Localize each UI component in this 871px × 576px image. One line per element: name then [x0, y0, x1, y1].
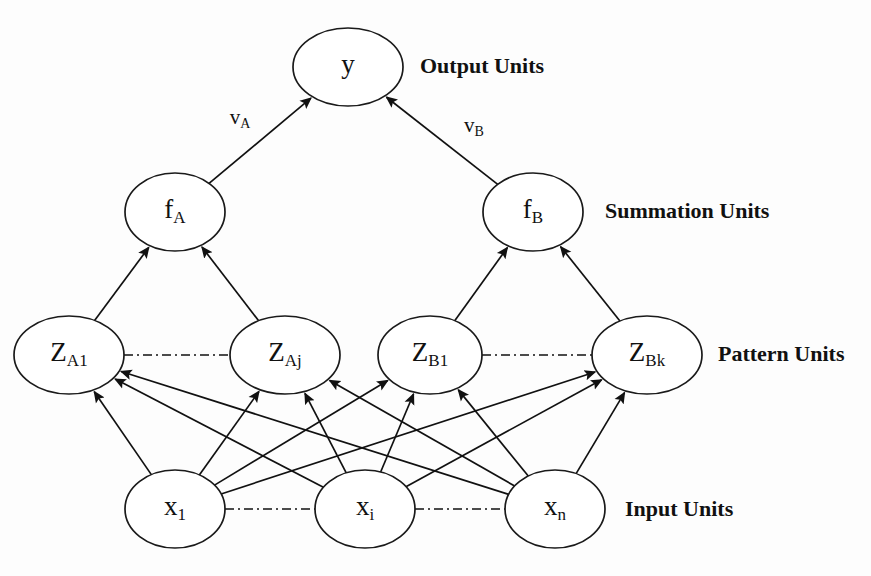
- node-y[interactable]: y: [293, 28, 403, 106]
- node-xi[interactable]: xi: [315, 470, 415, 548]
- node-ZAj[interactable]: ZAj: [230, 316, 340, 394]
- edge-arrow-fA-to-y: [209, 98, 311, 183]
- layer-label-output: Output Units: [420, 53, 545, 78]
- node-ZB1[interactable]: ZB1: [378, 316, 482, 394]
- edge-arrow-xn-to-ZBk: [576, 393, 624, 474]
- edge-arrow-x1-to-ZA1: [94, 392, 151, 475]
- node-fB[interactable]: fB: [483, 173, 583, 251]
- node-x1[interactable]: x1: [125, 470, 225, 548]
- node-label-y: y: [341, 49, 355, 79]
- layer-label-pattern: Pattern Units: [718, 341, 845, 366]
- edge-arrow-xi-to-ZAj: [305, 393, 346, 472]
- edge-arrow-xn-to-ZB1: [458, 390, 528, 476]
- edge-arrow-fB-to-y: [387, 97, 498, 184]
- network-diagram: yfAfBZA1ZAjZB1ZBkx1xixn Output UnitsSumm…: [0, 0, 871, 576]
- edge-arrow-ZBk-to-fB: [561, 247, 620, 321]
- node-fA[interactable]: fA: [125, 173, 225, 251]
- node-xn[interactable]: xn: [505, 470, 605, 548]
- edge-arrow-x1-to-ZAj: [199, 391, 259, 474]
- node-layer: yfAfBZA1ZAjZB1ZBkx1xixn: [14, 28, 702, 548]
- edge-arrow-ZA1-to-fA: [95, 247, 149, 320]
- edge-arrow-ZB1-to-fB: [455, 248, 508, 321]
- layer-label-input: Input Units: [625, 496, 734, 521]
- layer-label-summation: Summation Units: [605, 198, 770, 223]
- edge-weight-label-fA-y: vA: [230, 105, 252, 131]
- edge-weight-label-fB-y: vB: [464, 113, 484, 139]
- edge-arrow-ZAj-to-fA: [202, 247, 259, 321]
- edge-arrow-xi-to-ZA1: [115, 379, 323, 487]
- node-ZBk[interactable]: ZBk: [592, 316, 702, 394]
- diagram-canvas: yfAfBZA1ZAjZB1ZBkx1xixn Output UnitsSumm…: [0, 0, 871, 576]
- node-ZA1[interactable]: ZA1: [14, 316, 124, 394]
- edge-layer: [94, 97, 624, 509]
